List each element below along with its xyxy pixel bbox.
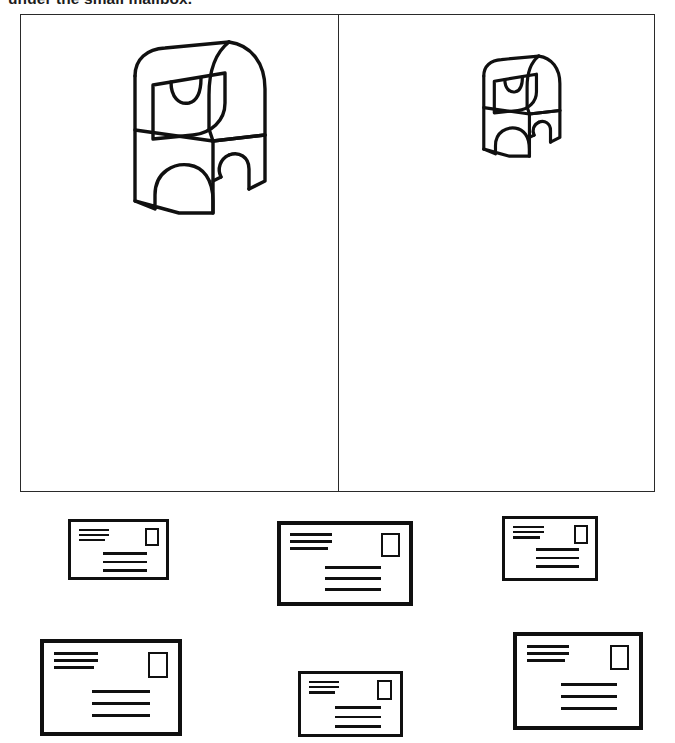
address-line — [92, 702, 150, 705]
address-block — [536, 548, 579, 568]
address-block — [103, 552, 147, 572]
left-panel-large-mailbox[interactable] — [21, 15, 338, 491]
return-address-line — [290, 533, 332, 536]
stamp-icon — [381, 533, 400, 557]
return-address-block — [79, 529, 109, 541]
address-line — [325, 588, 381, 591]
mailbox-small[interactable] — [451, 47, 571, 171]
address-line — [536, 557, 579, 560]
stamp-icon — [145, 528, 159, 546]
worksheet-page: under the small mailbox. — [0, 0, 675, 743]
return-address-line — [54, 666, 94, 669]
return-address-line — [79, 534, 109, 536]
return-address-line — [527, 652, 569, 655]
return-address-line — [54, 659, 98, 662]
return-address-line — [527, 659, 565, 662]
return-address-line — [54, 652, 98, 655]
mailbox-icon — [79, 29, 284, 229]
address-line — [335, 725, 381, 728]
return-address-block — [54, 652, 98, 669]
envelope-6[interactable] — [513, 632, 643, 730]
address-line — [92, 714, 150, 717]
right-panel-small-mailbox[interactable] — [339, 15, 655, 491]
return-address-line — [309, 686, 339, 688]
address-line — [561, 707, 617, 710]
return-address-block — [527, 645, 569, 662]
address-block — [325, 566, 381, 591]
address-line — [536, 548, 579, 551]
address-line — [536, 565, 579, 568]
envelope-5[interactable] — [298, 671, 403, 737]
address-block — [92, 690, 150, 717]
address-line — [561, 683, 617, 686]
address-line — [335, 706, 381, 709]
address-line — [103, 569, 147, 572]
return-address-line — [513, 531, 544, 533]
return-address-line — [309, 691, 335, 693]
address-line — [561, 695, 617, 698]
mailbox-icon — [451, 47, 571, 167]
return-address-line — [527, 645, 569, 648]
address-line — [325, 566, 381, 569]
comparison-frame — [20, 14, 655, 492]
return-address-line — [513, 536, 540, 538]
return-address-line — [290, 540, 332, 543]
return-address-line — [79, 529, 109, 531]
return-address-line — [309, 681, 339, 683]
return-address-block — [290, 533, 332, 550]
return-address-line — [290, 547, 328, 550]
address-block — [561, 683, 617, 710]
return-address-line — [79, 539, 105, 541]
address-line — [103, 552, 147, 555]
return-address-block — [513, 526, 544, 539]
stamp-icon — [610, 645, 629, 670]
stamp-icon — [148, 652, 168, 678]
address-block — [335, 706, 381, 728]
address-line — [103, 561, 147, 564]
instruction-text: under the small mailbox. — [8, 0, 428, 11]
return-address-line — [513, 526, 544, 528]
stamp-icon — [377, 680, 392, 700]
envelope-4[interactable] — [40, 639, 182, 736]
address-line — [92, 690, 150, 693]
envelope-3[interactable] — [502, 516, 598, 581]
return-address-block — [309, 681, 339, 694]
address-line — [325, 577, 381, 580]
envelope-1[interactable] — [68, 519, 169, 580]
envelope-2[interactable] — [277, 521, 413, 606]
stamp-icon — [574, 525, 588, 544]
mailbox-large[interactable] — [79, 29, 284, 233]
address-line — [335, 716, 381, 719]
